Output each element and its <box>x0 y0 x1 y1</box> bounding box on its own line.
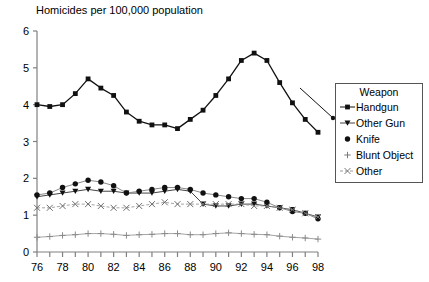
legend-item-label: Handgun <box>356 100 399 114</box>
legend-item-label: Other Gun <box>356 116 405 130</box>
blunt-object-series-icon <box>339 148 356 162</box>
legend-item-other[interactable]: Other <box>339 163 419 179</box>
series-blunt-object <box>34 230 321 243</box>
other-gun-series-icon <box>339 116 356 130</box>
x-axis-tick-label: 80 <box>82 261 94 273</box>
x-axis-tick-label: 88 <box>184 261 196 273</box>
x-axis-tick-label: 98 <box>312 261 324 273</box>
legend-leader-line <box>300 88 335 120</box>
other-series-icon <box>339 164 356 178</box>
legend-item-knife[interactable]: Knife <box>339 131 419 147</box>
x-axis-tick-label: 90 <box>210 261 222 273</box>
legend-item-label: Blunt Object <box>356 148 413 162</box>
legend-item-label: Other <box>356 164 382 178</box>
y-axis-tick-label: 3 <box>23 136 29 148</box>
legend-item-handgun[interactable]: Handgun <box>339 99 419 115</box>
x-axis-tick-label: 86 <box>159 261 171 273</box>
x-axis-tick-label: 92 <box>235 261 247 273</box>
x-axis-tick-label: 94 <box>261 261 273 273</box>
series-other-gun <box>34 187 321 220</box>
knife-series-icon <box>339 132 356 146</box>
y-axis-tick-label: 6 <box>23 25 29 37</box>
data-series-layer <box>34 51 321 243</box>
x-axis-tick-label: 96 <box>286 261 298 273</box>
legend-item-label: Knife <box>356 132 380 146</box>
x-axis-tick-label: 84 <box>133 261 145 273</box>
y-axis-tick-label: 5 <box>23 62 29 74</box>
y-axis-tick-label: 0 <box>23 246 29 258</box>
legend-title: Weapon <box>339 86 419 99</box>
legend-item-other-gun[interactable]: Other Gun <box>339 115 419 131</box>
chart-figure: Homicides per 100,000 population 0123456… <box>0 0 429 282</box>
x-axis-tick-label: 78 <box>56 261 68 273</box>
y-axis-tick-label: 4 <box>23 99 29 111</box>
x-axis-tick-label: 82 <box>108 261 120 273</box>
legend: Weapon Handgun Other Gun Knife Blunt Obj… <box>335 83 423 183</box>
legend-item-blunt-object[interactable]: Blunt Object <box>339 147 419 163</box>
y-axis-tick-label: 2 <box>23 172 29 184</box>
series-other <box>34 199 321 220</box>
y-axis-tick-label: 1 <box>23 209 29 221</box>
series-handgun <box>35 51 321 135</box>
handgun-series-icon <box>339 100 356 114</box>
series-knife <box>34 177 320 221</box>
x-axis-tick-label: 76 <box>31 261 43 273</box>
